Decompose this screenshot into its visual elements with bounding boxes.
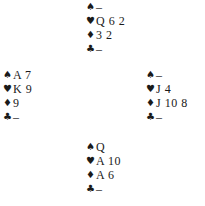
diamond-icon: ♦: [3, 96, 13, 110]
west-diamonds: ♦9: [3, 96, 32, 110]
heart-icon: ♥: [3, 82, 13, 96]
east-hand: ♠– ♥J 4 ♦J 10 8 ♣–: [146, 68, 188, 124]
west-spades: ♠A 7: [3, 68, 32, 82]
north-diamonds: ♦3 2: [86, 28, 125, 42]
south-clubs: ♣–: [86, 182, 121, 196]
west-hearts: ♥K 9: [3, 82, 32, 96]
east-diamonds: ♦J 10 8: [146, 96, 188, 110]
spade-icon: ♠: [146, 68, 156, 82]
north-clubs: ♣–: [86, 42, 125, 56]
north-hand: ♠– ♥Q 6 2 ♦3 2 ♣–: [86, 0, 125, 56]
club-icon: ♣: [86, 42, 96, 56]
diamond-icon: ♦: [146, 96, 156, 110]
heart-icon: ♥: [146, 82, 156, 96]
diamond-icon: ♦: [86, 168, 96, 182]
south-diamonds: ♦A 6: [86, 168, 121, 182]
spade-icon: ♠: [86, 0, 96, 14]
east-spades: ♠–: [146, 68, 188, 82]
east-hearts: ♥J 4: [146, 82, 188, 96]
spade-icon: ♠: [86, 140, 96, 154]
club-icon: ♣: [3, 110, 13, 124]
north-spades: ♠–: [86, 0, 125, 14]
club-icon: ♣: [86, 182, 96, 196]
spade-icon: ♠: [3, 68, 13, 82]
club-icon: ♣: [146, 110, 156, 124]
south-spades: ♠Q: [86, 140, 121, 154]
diamond-icon: ♦: [86, 28, 96, 42]
heart-icon: ♥: [86, 14, 96, 28]
north-hearts: ♥Q 6 2: [86, 14, 125, 28]
west-clubs: ♣–: [3, 110, 32, 124]
east-clubs: ♣–: [146, 110, 188, 124]
west-hand: ♠A 7 ♥K 9 ♦9 ♣–: [3, 68, 32, 124]
south-hand: ♠Q ♥A 10 ♦A 6 ♣–: [86, 140, 121, 196]
heart-icon: ♥: [86, 154, 96, 168]
south-hearts: ♥A 10: [86, 154, 121, 168]
